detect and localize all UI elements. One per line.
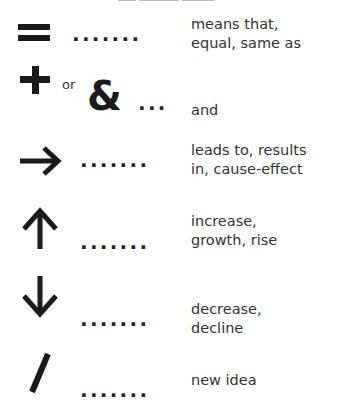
dotted-leader: ....... — [80, 385, 149, 395]
or-connector: or — [62, 77, 75, 92]
slash-icon — [26, 352, 54, 394]
dotted-leader: ....... — [72, 29, 141, 39]
meaning-text: new idea — [191, 371, 257, 390]
dotted-leader: ... — [138, 98, 168, 108]
arrow-right-icon — [18, 146, 64, 176]
ampersand-icon: & — [87, 76, 122, 116]
meaning-text: and — [191, 101, 218, 120]
cut-off-heading — [118, 0, 248, 3]
arrow-up-icon — [20, 207, 62, 251]
arrow-down-icon — [20, 274, 62, 318]
dotted-leader: ....... — [80, 237, 149, 247]
dotted-leader: ....... — [80, 314, 149, 324]
meaning-text: decrease, decline — [191, 300, 262, 338]
meaning-text: increase, growth, rise — [191, 212, 277, 250]
equals-icon — [18, 24, 52, 42]
plus-icon — [20, 66, 54, 96]
meaning-text: leads to, results in, cause-effect — [191, 141, 307, 179]
dotted-leader: ....... — [80, 155, 149, 165]
meaning-text: means that, equal, same as — [191, 15, 301, 53]
